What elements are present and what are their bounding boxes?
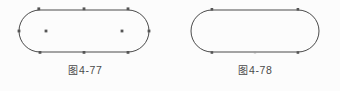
figure-4-78: 图4-78	[170, 0, 340, 91]
figure-4-78-drawing	[170, 0, 340, 62]
marker-bottom-left-tangent	[211, 51, 214, 54]
figure-page: 图4-77 图4-78	[0, 0, 340, 91]
marker-top-right-tangent	[127, 7, 130, 10]
marker-right-arc-extreme	[148, 30, 151, 33]
marker-top-left-tangent	[37, 7, 40, 10]
figure-4-78-caption: 图4-78	[170, 62, 340, 77]
marker-left-arc-extreme	[18, 30, 21, 33]
figure-4-77-caption: 图4-77	[0, 62, 170, 77]
figure-4-78-caption-cjk: 图	[238, 65, 250, 76]
marker-interior-right	[121, 30, 124, 33]
figure-4-78-caption-number: 4-78	[249, 64, 272, 76]
marker-top-left-tangent	[211, 8, 214, 11]
marker-interior-left	[45, 30, 48, 33]
marker-bottom-middle	[83, 51, 86, 54]
figure-4-77-drawing	[0, 0, 170, 62]
stadium-outline	[19, 10, 149, 52]
figure-4-77-caption-number: 4-77	[79, 64, 102, 76]
figure-4-77: 图4-77	[0, 0, 170, 91]
marker-top-right-tangent	[297, 8, 300, 11]
stadium-outline	[191, 10, 319, 52]
marker-bottom-left-tangent	[39, 51, 42, 54]
marker-bottom-right-tangent	[127, 51, 130, 54]
marker-bottom-middle-faint	[254, 51, 256, 53]
marker-top-middle	[83, 7, 86, 10]
figure-4-77-caption-cjk: 图	[68, 65, 80, 76]
marker-bottom-right-tangent	[297, 51, 300, 54]
